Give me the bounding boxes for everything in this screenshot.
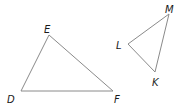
triangles-figure: D E F L M K (0, 0, 180, 109)
vertex-label-m: M (165, 4, 174, 15)
diagram-canvas: D E F L M K (0, 0, 180, 109)
vertex-label-d: D (7, 94, 15, 105)
vertex-label-k: K (152, 77, 160, 88)
triangle-lmk (128, 14, 169, 72)
vertex-label-l: L (116, 40, 122, 51)
vertex-label-f: F (114, 94, 120, 105)
vertex-label-e: E (44, 24, 51, 35)
triangle-def (21, 35, 113, 91)
